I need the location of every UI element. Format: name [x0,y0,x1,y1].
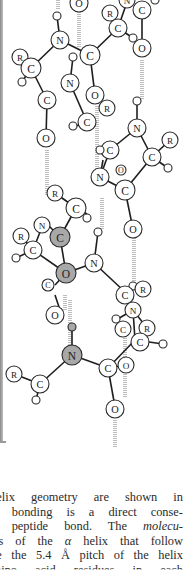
caption-line: ons of the α helix that follow [0,534,183,549]
carbon-atom: C [99,359,117,377]
svg-text:R: R [11,370,18,380]
carbon-atom: C [133,1,151,19]
svg-text:C: C [121,185,129,197]
carbon-atom: C [115,321,131,337]
side-chain-r-group: R [99,100,115,116]
oxygen-atom: O [37,129,55,147]
svg-text:C: C [120,325,126,335]
svg-text:C: C [139,5,146,16]
hydrogen-atom [12,254,20,262]
carbon-atom: C [50,227,70,247]
svg-text:R: R [18,232,25,242]
hydrogen-atom [159,340,167,348]
caption-line: ar peptide bond. The molecu- [0,519,183,534]
caption-line-partial: amino acid residues in each [0,563,183,573]
svg-text:C: C [122,290,129,301]
hydrogen-atom [164,164,172,172]
carbon-atom: C [80,45,100,65]
atom-layer: ONCRCONCRCNORCCONRCCNOCRCONCRCNOCRCNCROC… [6,0,178,418]
svg-text:O: O [51,310,59,321]
nitrogen-atom: N [119,0,135,8]
carbon-atom: C [24,241,42,259]
svg-text:C: C [107,145,114,156]
side-chain-r-group: R [102,5,118,21]
svg-text:O: O [62,268,70,280]
svg-text:C: C [27,63,35,75]
oxygen-atom: O [70,0,88,12]
svg-text:C: C [37,379,44,390]
svg-text:C: C [115,23,122,34]
svg-text:O: O [91,90,99,101]
carbon-atom: C [38,91,56,109]
svg-text:O: O [138,43,146,54]
caption-text: ons of the [0,534,65,548]
carbon-atom: C [115,180,135,200]
svg-text:O: O [118,166,124,175]
caption-text: helix that follow [71,534,183,548]
hydrogen-atom [18,78,26,86]
svg-text:O: O [129,224,137,235]
svg-text:N: N [96,172,104,183]
oxygen-atom: O [86,86,104,104]
carbon-atom: C [42,279,54,291]
hydrogen-atom [83,214,91,222]
carbon-atom: C [131,333,149,351]
side-chain-r-group: R [135,281,151,297]
svg-text:C: C [45,281,50,290]
nitrogen-atom: N [34,217,50,233]
svg-text:C: C [105,363,112,374]
svg-text:C: C [86,50,94,62]
svg-text:O: O [111,404,119,415]
svg-text:C: C [44,95,51,106]
oxygen-atom: O [116,165,126,175]
caption-italic-term: molecu- [143,519,183,533]
nitrogen-atom: N [91,168,109,186]
svg-text:N: N [68,350,77,362]
nitrogen-atom: N [61,74,79,92]
svg-text:N: N [124,0,131,6]
svg-text:O: O [123,361,130,371]
carbon-atom: C [78,113,96,131]
hydrogen-atom [94,228,102,236]
svg-text:C: C [30,245,37,256]
hydrogen-atom [32,396,40,404]
svg-text:C: C [84,117,91,128]
hydrogen-atom [69,122,77,130]
hydrogen-atom [151,0,159,4]
svg-text:N: N [133,123,141,134]
hydrogen-atom [96,146,104,154]
oxygen-atom: O [46,306,64,324]
oxygen-atom: O [56,263,76,283]
alpha-helix-diagram: ONCRCONCRCNORCCONRCCNOCRCONCRCNOCRCNCROC… [0,0,183,450]
side-chain-r-group: R [13,228,29,244]
svg-text:O: O [42,133,50,144]
hydrogen-atom [133,97,141,105]
side-chain-r-group: R [6,366,22,382]
svg-text:C: C [72,203,80,215]
svg-text:R: R [52,189,59,199]
nitrogen-atom: N [51,31,69,49]
side-chain-r-group: R [47,185,63,201]
carbon-atom: C [116,286,134,304]
nitrogen-atom: N [125,302,141,318]
caption-text: ar peptide bond. The [0,519,143,533]
svg-text:R: R [144,324,151,334]
carbon-atom: C [143,148,161,166]
nitrogen-atom: N [62,345,82,365]
oxygen-atom: O [106,400,124,418]
hydrogen-atom [68,323,76,331]
caption-line: -helix geometry are shown in [0,490,183,505]
carbon-atom: C [21,58,41,78]
carbon-atom: C [66,198,86,218]
svg-text:R: R [107,9,114,19]
nitrogen-atom: N [85,254,103,272]
svg-text:R: R [167,136,174,146]
oxygen-atom: O [124,220,142,238]
svg-text:N: N [130,306,137,316]
caption-line: en bonding is a direct conse- [0,505,183,520]
svg-text:R: R [17,53,24,63]
nitrogen-atom: N [128,119,146,137]
carbon-atom: C [31,375,49,393]
hydrogen-atom [69,53,77,61]
svg-text:N: N [90,258,98,269]
